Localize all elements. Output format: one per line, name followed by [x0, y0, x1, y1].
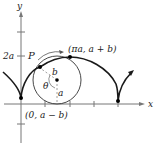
apex-point: [68, 55, 72, 59]
y-axis-arrow-icon: [19, 11, 23, 17]
start-point: [19, 96, 23, 100]
apex-point-label: (πa, a + b): [68, 44, 117, 54]
rotation-arrow-icon: [59, 50, 64, 54]
point-p-label: P: [27, 50, 35, 61]
y-axis-label: y: [16, 1, 23, 11]
x-axis-label: x: [148, 99, 153, 109]
circle-center: [55, 78, 59, 82]
angle-theta-label: θ: [43, 81, 49, 91]
y-tick-label-2a: 2a: [2, 51, 14, 61]
cycloid-curve: [3, 57, 131, 101]
end-point: [116, 99, 120, 103]
prolate-cycloid-diagram: y x 2a P (πa, a + b) (0, a − b) b a θ: [0, 0, 168, 147]
radius-a-label: a: [58, 88, 63, 98]
point-p: [38, 65, 42, 69]
start-point-label: (0, a − b): [25, 110, 68, 120]
radius-b-label: b: [52, 67, 58, 77]
x-axis-arrow-icon: [139, 102, 145, 106]
